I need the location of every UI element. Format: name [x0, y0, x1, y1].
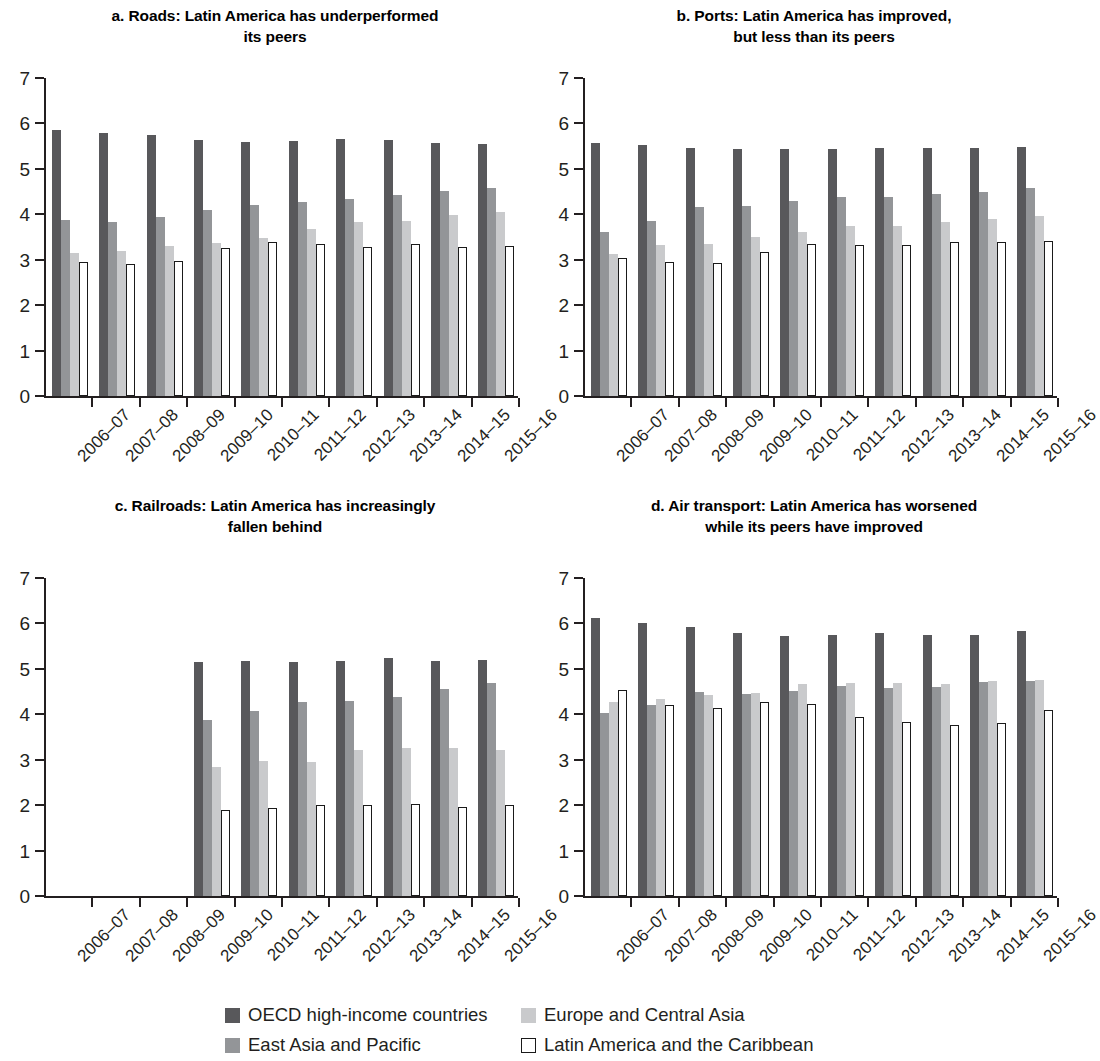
- bar: [760, 252, 769, 396]
- legend-swatch-icon: [521, 1008, 536, 1023]
- bar: [1017, 631, 1026, 896]
- y-axis-tick: 6: [35, 622, 44, 624]
- y-axis-tick: 0: [35, 895, 44, 897]
- bar: [638, 623, 647, 896]
- panel-a-roads: a. Roads: Latin America has underperform…: [0, 0, 539, 490]
- bar: [997, 723, 1006, 896]
- bar: [950, 725, 959, 896]
- bar: [988, 219, 997, 396]
- bar: [638, 145, 647, 396]
- legend-row: OECD high-income countries Europe and Ce…: [225, 1002, 865, 1028]
- legend-item-oecd-high-income-countries: OECD high-income countries: [225, 1006, 488, 1025]
- y-axis-tick-label: 0: [19, 887, 30, 906]
- bar: [505, 246, 514, 396]
- bar-group: [289, 78, 325, 396]
- bar: [902, 245, 911, 396]
- bar: [440, 191, 449, 396]
- y-axis-tick-label: 4: [558, 205, 569, 224]
- bar: [846, 683, 855, 896]
- bar: [647, 221, 656, 396]
- y-axis-tick: 2: [35, 804, 44, 806]
- y-axis-tick-label: 3: [558, 750, 569, 769]
- legend-item-label: OECD high-income countries: [248, 1006, 488, 1025]
- bar: [760, 702, 769, 896]
- legend-swatch-icon: [225, 1008, 240, 1023]
- bar: [61, 220, 70, 396]
- bar: [440, 689, 449, 896]
- y-axis-tick-label: 5: [19, 659, 30, 678]
- panel-c-plot-area: 01234567: [44, 578, 518, 898]
- bar: [837, 197, 846, 396]
- bar: [316, 805, 325, 896]
- y-axis-tick-label: 6: [19, 114, 30, 133]
- bar: [117, 251, 126, 396]
- bar: [893, 226, 902, 396]
- y-axis-tick-label: 0: [558, 887, 569, 906]
- bar: [203, 210, 212, 396]
- bar-group: [289, 578, 325, 896]
- bar: [212, 767, 221, 896]
- bar-group: [686, 78, 722, 396]
- bar: [751, 693, 760, 896]
- y-axis-tick-label: 1: [558, 841, 569, 860]
- legend-item-europe-and-central-asia: Europe and Central Asia: [521, 1006, 745, 1025]
- bar: [742, 206, 751, 396]
- panel-d-title: d. Air transport: Latin America has wors…: [579, 496, 1049, 538]
- y-axis-tick-label: 6: [19, 614, 30, 633]
- x-axis-tick: [1057, 898, 1059, 907]
- bar: [807, 244, 816, 396]
- bar: [393, 195, 402, 396]
- y-axis-tick-label: 1: [19, 341, 30, 360]
- bar: [496, 212, 505, 396]
- bar: [363, 805, 372, 896]
- bar: [147, 135, 156, 396]
- y-axis-tick: 1: [35, 350, 44, 352]
- y-axis-tick: 5: [35, 668, 44, 670]
- bar: [600, 232, 609, 396]
- bar: [478, 660, 487, 896]
- bar: [807, 704, 816, 896]
- bar: [79, 262, 88, 396]
- x-axis-tick-label: 2011–12: [311, 406, 369, 464]
- y-axis-tick: 3: [35, 259, 44, 261]
- bar: [221, 248, 230, 396]
- y-axis-line: [583, 578, 585, 898]
- x-axis-tick-label: 2011–12: [850, 906, 908, 964]
- y-axis-tick-label: 7: [558, 69, 569, 88]
- bar: [846, 226, 855, 396]
- bar: [932, 687, 941, 896]
- y-axis-line: [44, 78, 46, 398]
- y-axis-tick: 3: [35, 759, 44, 761]
- bar-group: [431, 578, 467, 896]
- bar: [742, 694, 751, 896]
- bar: [336, 139, 345, 396]
- bar: [1035, 216, 1044, 396]
- panel-b-ports: b. Ports: Latin America has improved,but…: [539, 0, 1078, 490]
- bar: [618, 690, 627, 896]
- bar-group: [875, 78, 911, 396]
- y-axis-tick: 2: [574, 304, 583, 306]
- y-axis-tick: 0: [574, 895, 583, 897]
- bar: [174, 261, 183, 396]
- y-axis-tick: 6: [35, 122, 44, 124]
- bar: [268, 242, 277, 396]
- bar: [618, 258, 627, 396]
- panel-b-x-axis-labels: 2006–072007–082008–092009–102010–112011–…: [583, 406, 1057, 486]
- y-axis-tick: 4: [35, 213, 44, 215]
- bar-group: [99, 578, 135, 896]
- bar-group: [733, 578, 769, 896]
- bar: [108, 222, 117, 396]
- y-axis-tick-label: 5: [558, 659, 569, 678]
- y-axis-tick-label: 0: [558, 387, 569, 406]
- panel-a-plot-area: 01234567: [44, 78, 518, 398]
- bar: [828, 149, 837, 396]
- bar: [780, 149, 789, 396]
- bar-group: [780, 578, 816, 896]
- panel-d-air-transport: d. Air transport: Latin America has wors…: [539, 490, 1078, 980]
- bar: [656, 699, 665, 896]
- bar: [250, 205, 259, 396]
- bar: [384, 140, 393, 396]
- bar: [979, 192, 988, 396]
- bar: [997, 242, 1006, 396]
